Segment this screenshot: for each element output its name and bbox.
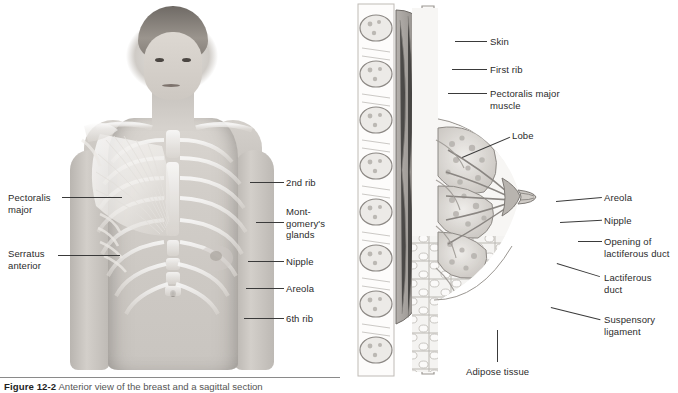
label-lactiferous-duct: Lactiferous duct bbox=[604, 272, 652, 295]
leader-serratus-anterior bbox=[58, 255, 120, 256]
nipple-areola-complex bbox=[502, 178, 536, 216]
label-pectoralis-major: Pectoralis major bbox=[8, 192, 51, 215]
label-opening-of-lactiferous-duct: Opening of lactiferous duct bbox=[604, 236, 670, 259]
leader-adipose-tissue bbox=[497, 330, 498, 362]
leader-opening-of-lactiferous-duct bbox=[578, 241, 602, 242]
label-suspensory-ligament: Suspensory ligament bbox=[604, 314, 655, 337]
leader-2nd-rib bbox=[250, 182, 284, 183]
label-serratus-anterior: Serratus anterior bbox=[8, 248, 45, 271]
label-2nd-rib: 2nd rib bbox=[286, 177, 316, 189]
caption-number: Figure 12-2 bbox=[4, 381, 56, 392]
label-first-rib: First rib bbox=[490, 64, 523, 76]
chest-wall bbox=[358, 4, 394, 376]
label-areola: Areola bbox=[286, 283, 314, 295]
label-areola-sagittal: Areola bbox=[604, 192, 632, 204]
caption-divider bbox=[0, 377, 340, 378]
leader-skin bbox=[455, 41, 487, 42]
leader-first-rib bbox=[452, 69, 487, 70]
left-panel-anterior-view: Pectoralis major Serratus anterior 2nd r… bbox=[0, 0, 345, 372]
label-nipple-sagittal: Nipple bbox=[604, 215, 632, 227]
label-lobe: Lobe bbox=[512, 130, 534, 142]
leader-6th-rib bbox=[244, 318, 284, 319]
leader-nipple bbox=[248, 261, 284, 262]
label-pectoralis-major-muscle: Pectoralis major muscle bbox=[490, 88, 560, 111]
label-skin: Skin bbox=[490, 36, 509, 48]
label-adipose-tissue: Adipose tissue bbox=[466, 366, 529, 378]
skeletal-muscle-overlay bbox=[56, 0, 288, 370]
torso-photograph bbox=[56, 0, 288, 370]
leader-pectoralis-major-muscle bbox=[448, 93, 487, 94]
anatomy-figure: Pectoralis major Serratus anterior 2nd r… bbox=[0, 0, 678, 393]
leader-areola bbox=[246, 288, 284, 289]
leader-montgomerys-glands bbox=[256, 222, 284, 223]
label-montgomerys-glands: Mont- gomery's glands bbox=[286, 206, 325, 241]
caption-text: Anterior view of the breast and a sagitt… bbox=[58, 381, 262, 392]
figure-caption: Figure 12-2 Anterior view of the breast … bbox=[4, 381, 340, 393]
label-nipple: Nipple bbox=[286, 256, 314, 268]
label-6th-rib: 6th rib bbox=[286, 313, 313, 325]
leader-pectoralis-major bbox=[62, 197, 122, 198]
